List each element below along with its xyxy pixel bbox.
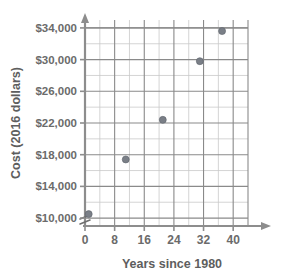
y-tick-label: $30,000	[35, 54, 77, 66]
x-tick-label: 24	[167, 233, 181, 247]
data-point	[85, 211, 92, 218]
x-tick-label: 40	[227, 233, 241, 247]
y-tick-label: $10,000	[35, 212, 77, 224]
x-tick-label: 32	[197, 233, 211, 247]
data-point	[219, 28, 226, 35]
y-axis-tick-labels: $10,000$14,000$18,000$22,000$26,000$30,0…	[35, 22, 77, 224]
x-axis-arrowhead	[261, 222, 271, 230]
data-point	[196, 58, 203, 65]
y-tick-label: $14,000	[35, 180, 77, 192]
scatter-plot-figure: $10,000$14,000$18,000$22,000$26,000$30,0…	[0, 0, 285, 277]
y-tick-label: $22,000	[35, 117, 77, 129]
chart-canvas: $10,000$14,000$18,000$22,000$26,000$30,0…	[0, 0, 285, 277]
axis-tick-marks	[80, 28, 233, 231]
x-tick-label: 0	[82, 233, 89, 247]
data-point	[159, 116, 166, 123]
y-tick-label: $34,000	[35, 22, 77, 34]
data-point	[122, 156, 129, 163]
x-tick-label: 8	[111, 233, 118, 247]
x-axis-title: Years since 1980	[122, 257, 222, 271]
x-tick-label: 16	[138, 233, 152, 247]
y-axis-title: Cost (2016 dollars)	[9, 67, 23, 179]
x-axis-tick-labels: 0816243240	[82, 233, 241, 247]
major-gridlines	[85, 20, 248, 226]
y-tick-label: $18,000	[35, 149, 77, 161]
axis-lines	[81, 13, 271, 230]
y-axis-arrowhead	[81, 13, 89, 23]
y-tick-label: $26,000	[35, 85, 77, 97]
